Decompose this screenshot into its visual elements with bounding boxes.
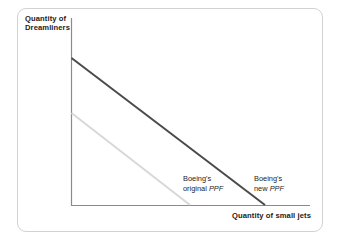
new-ppf-label: Boeing's new PPF xyxy=(254,174,284,194)
new-ppf-label-prefix: new xyxy=(254,184,270,193)
original-ppf-label-line2: original PPF xyxy=(183,184,223,194)
original-ppf-label-prefix: original xyxy=(183,184,209,193)
new-ppf-label-line2: new PPF xyxy=(254,184,284,194)
original-ppf-label-line1: Boeing's xyxy=(183,174,223,184)
new-ppf-label-line1: Boeing's xyxy=(254,174,284,184)
y-axis-label: Quantity of Dreamliners xyxy=(25,15,70,33)
figure-card-frame xyxy=(17,8,323,232)
y-axis-label-line2: Dreamliners xyxy=(25,24,70,33)
original-ppf-label-acronym: PPF xyxy=(209,184,223,193)
x-axis-label: Quantity of small jets xyxy=(232,212,311,221)
ppf-figure: Quantity of Dreamliners Quantity of smal… xyxy=(0,0,341,243)
original-ppf-label: Boeing's original PPF xyxy=(183,174,223,194)
new-ppf-label-acronym: PPF xyxy=(270,184,284,193)
